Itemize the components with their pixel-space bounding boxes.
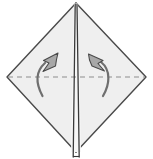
origami-diagram (0, 0, 153, 159)
origami-diagram-svg (0, 0, 153, 159)
